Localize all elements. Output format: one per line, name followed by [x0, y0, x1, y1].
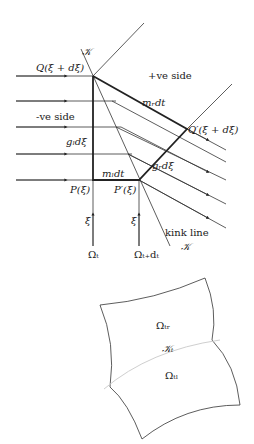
label-omega-tl: Ωₜₗ — [165, 370, 178, 381]
label-kink-t: 𝒦ₜ — [162, 343, 175, 354]
lower-diagram: Ωₜᵣ 𝒦ₜ Ωₜₗ — [100, 278, 240, 439]
label-kink-top: 𝒦 — [82, 46, 95, 57]
label-Q: Q(ξ + dξ) — [36, 62, 84, 73]
front-line-top — [93, 23, 144, 76]
label-xi-left: ξ — [85, 215, 91, 226]
label-m-r-dt: mᵣdt — [142, 97, 166, 108]
label-kink-line: kink line — [165, 227, 209, 238]
label-g-r-dxi: gᵣdξ — [152, 160, 174, 171]
label-negative-side: -ve side — [36, 111, 75, 122]
label-omega-t: Ωₜ — [88, 249, 99, 260]
front-line-right — [187, 84, 232, 129]
label-xi-right: ξ — [131, 215, 137, 226]
label-positive-side: +ve side — [148, 70, 192, 81]
label-P-prime: P′(ξ) — [113, 184, 136, 195]
label-omega-t-dt: Ωₜ₊dₜ — [134, 249, 159, 260]
label-Q-prime: Q′(ξ + dξ) — [188, 124, 239, 135]
upper-diagram: Q(ξ + dξ) Q′(ξ + dξ) P(ξ) P′(ξ) +ve side… — [16, 23, 239, 260]
label-m-l-dt: mₗdt — [102, 168, 125, 179]
left-characteristics — [16, 76, 132, 180]
kink-line-diagram: Q(ξ + dξ) Q′(ξ + dξ) P(ξ) P′(ξ) +ve side… — [0, 0, 254, 444]
label-P: P(ξ) — [69, 184, 90, 195]
surface-outline — [100, 278, 240, 439]
label-g-l-dxi: gₗdξ — [66, 136, 87, 147]
label-omega-tr: Ωₜᵣ — [156, 320, 170, 331]
label-kink-bottom: 𝒦 — [181, 241, 194, 252]
